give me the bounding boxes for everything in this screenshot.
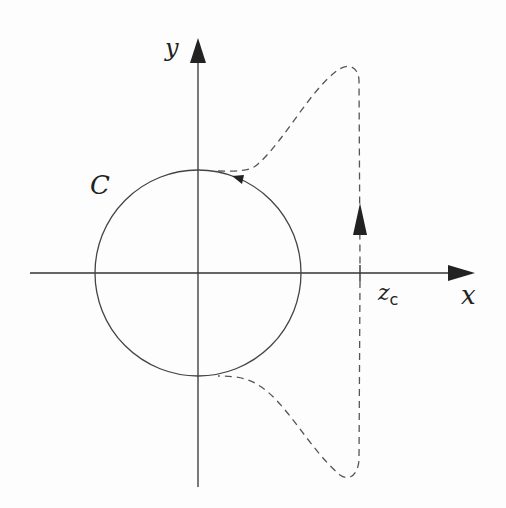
- circle-label: C: [90, 170, 110, 200]
- zc-label-sub: c: [390, 290, 399, 309]
- contour-direction-arrow-icon: [353, 203, 367, 235]
- zc-label: zc: [378, 280, 398, 309]
- x-axis-arrow-icon: [448, 265, 475, 281]
- zc-label-main: z: [378, 280, 390, 305]
- dashed-contour-bottom: [218, 281, 360, 478]
- y-axis-label: y: [165, 34, 179, 62]
- x-axis-label: x: [461, 280, 476, 310]
- contour-diagram: [0, 0, 506, 508]
- dashed-contour-top: [218, 66, 360, 265]
- y-axis-arrow-icon: [190, 38, 206, 63]
- circle-orientation-arrow-icon: [232, 175, 244, 184]
